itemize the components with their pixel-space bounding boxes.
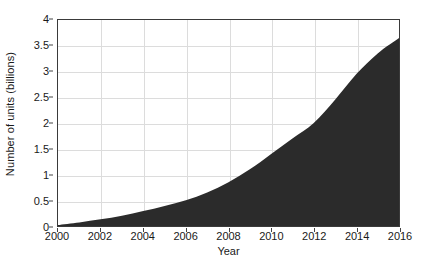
y-axis-tick-mark [49, 19, 53, 20]
y-axis-title-label: Number of units (billions) [4, 51, 16, 175]
x-axis-title-label: Year [217, 245, 239, 257]
x-axis-tick-mark [314, 228, 315, 232]
x-axis-tick-mark [100, 228, 101, 232]
area-series [58, 20, 399, 226]
y-axis-tick-label: 1.5 [34, 143, 49, 155]
x-axis-tick-mark [357, 228, 358, 232]
y-axis-tick-labels: 43.532.521.510.50 [20, 19, 53, 227]
x-axis-tick-mark [271, 228, 272, 232]
y-axis-tick-label: 2.5 [34, 91, 49, 103]
chart-figure: Number of units (billions) 43.532.521.51… [0, 0, 423, 269]
y-axis-tick-label: 0.5 [34, 195, 49, 207]
x-axis-tick-mark [186, 228, 187, 232]
y-axis-tick-mark [49, 97, 53, 98]
y-axis-tick-mark [49, 201, 53, 202]
y-axis-tick-mark [49, 227, 53, 228]
x-axis-title: Year [57, 245, 400, 257]
x-axis-tick-labels: 200020022004200620082010201220142016 [57, 228, 400, 244]
y-axis-tick-mark [49, 71, 53, 72]
y-axis-title: Number of units (billions) [0, 0, 20, 227]
y-axis-tick-label: 3.5 [34, 39, 49, 51]
y-axis-tick-mark [49, 149, 53, 150]
x-axis-tick-mark [400, 228, 401, 232]
x-axis-tick-mark [229, 228, 230, 232]
x-axis-tick-mark [57, 228, 58, 232]
y-axis-tick-mark [49, 45, 53, 46]
area-series-path [58, 38, 399, 226]
y-axis-tick-mark [49, 175, 53, 176]
plot-area [57, 19, 400, 227]
y-axis-tick-mark [49, 123, 53, 124]
x-axis-tick-mark [143, 228, 144, 232]
